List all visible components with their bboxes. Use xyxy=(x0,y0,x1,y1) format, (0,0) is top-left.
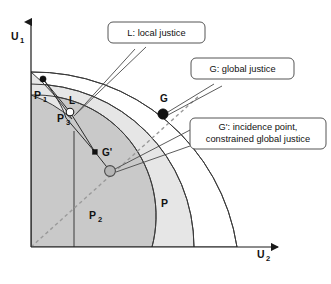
y-axis-label-sub: 1 xyxy=(20,36,24,45)
callout-local-justice[interactable]: L: local justice xyxy=(108,22,205,43)
callout-global-justice[interactable]: G: global justice xyxy=(191,58,294,79)
point-label-G-prime: G' xyxy=(102,147,112,158)
point-label-G: G xyxy=(160,93,168,104)
region-label-P3-main: P xyxy=(57,112,64,124)
leader-global-justice-b xyxy=(168,86,222,115)
x-axis-label-sub: 2 xyxy=(266,254,270,263)
callout-incidence-point[interactable]: G': incidence point, constrained global … xyxy=(190,118,326,149)
region-label-P3-sub: 3 xyxy=(66,118,70,127)
y-axis-label: U 1 xyxy=(11,30,24,45)
callout-incidence-line1: G': incidence point, xyxy=(219,122,298,132)
callout-global-justice-text: G: global justice xyxy=(209,64,275,74)
point-G-prime[interactable] xyxy=(105,166,116,177)
x-axis-label-main: U xyxy=(257,248,265,260)
x-axis-label: U 2 xyxy=(257,248,270,263)
point-label-L: L xyxy=(69,95,75,106)
utility-frontier-svg: L: local justice G: global justice G': i… xyxy=(0,0,331,284)
point-gprime-square[interactable] xyxy=(93,150,98,155)
y-axis-label-main: U xyxy=(11,30,19,42)
point-L[interactable] xyxy=(66,108,74,116)
region-label-P1-main: P xyxy=(34,89,41,101)
region-label-P2-main: P xyxy=(89,209,96,221)
region-label-P-main: P xyxy=(161,197,168,209)
leader-global-justice xyxy=(168,84,214,112)
callout-incidence-line2: constrained global justice xyxy=(206,134,310,144)
point-p1-dot[interactable] xyxy=(40,76,46,82)
point-G[interactable] xyxy=(158,109,168,119)
region-label-P2-sub: 2 xyxy=(98,215,102,224)
region-label-P1-sub: 1 xyxy=(43,95,47,104)
region-label-P: P xyxy=(161,197,168,209)
callout-local-justice-text: L: local justice xyxy=(127,28,185,38)
diagram-canvas: L: local justice G: global justice G': i… xyxy=(0,0,331,284)
